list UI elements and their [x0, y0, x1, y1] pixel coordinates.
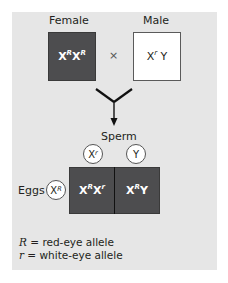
punnett-cell-male-offspring: XRY	[114, 167, 160, 214]
punnett-cell-female-offspring: XRXr	[69, 167, 115, 214]
female-genotype-box: XRXR	[48, 32, 96, 81]
sperm-label: Sperm	[101, 130, 137, 143]
merge-arrow-icon	[90, 85, 140, 131]
sperm-gamete-xr: Xr	[83, 144, 103, 164]
eggs-label: Eggs	[18, 184, 45, 197]
offspring-genotype-female: XRXr	[79, 184, 105, 197]
cross-symbol: ×	[109, 49, 118, 62]
legend-item-R: R = red-eye allele	[19, 236, 114, 249]
sperm-gamete-y: Y	[126, 144, 146, 164]
male-genotype: Xr Y	[147, 50, 168, 63]
male-genotype-box: Xr Y	[133, 32, 181, 81]
female-genotype: XRXR	[58, 50, 86, 63]
male-label: Male	[143, 14, 169, 27]
legend-item-r: r = white-eye allele	[19, 249, 123, 262]
offspring-genotype-male: XRY	[126, 184, 148, 197]
egg-gamete-xR: XR	[46, 180, 66, 200]
female-label: Female	[49, 14, 89, 27]
punnett-divider	[114, 167, 115, 214]
